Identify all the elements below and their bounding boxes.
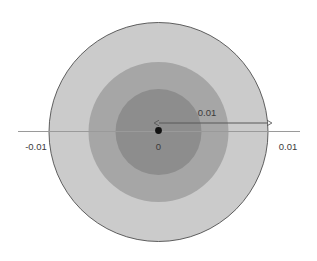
concentric-circles-figure: 0.01 -0.01 0 0.01 <box>0 0 317 261</box>
figure-canvas: 0.01 -0.01 0 0.01 <box>0 0 317 261</box>
axis-tick-label-left: -0.01 <box>25 141 47 152</box>
origin-dot <box>155 127 162 134</box>
axis-tick-label-right: 0.01 <box>279 141 298 152</box>
radius-arrow-label: 0.01 <box>198 107 217 118</box>
axis-tick-label-center: 0 <box>156 141 161 152</box>
